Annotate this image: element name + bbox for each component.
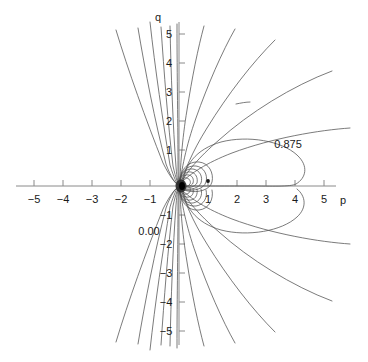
- x-tick-label--5: −5: [28, 193, 41, 205]
- contour-fragment-stray: [236, 102, 250, 104]
- x-tick-label--1: −1: [144, 193, 157, 205]
- contour-label-000: 0.00: [138, 225, 159, 237]
- contour-open-ul-4: [161, 27, 179, 185]
- y-tick-label-4: 4: [166, 57, 172, 69]
- x-axis-label: p: [340, 194, 346, 206]
- contour-open-lr-2: [180, 187, 235, 343]
- y-tick-label-5: 5: [166, 28, 172, 40]
- x-tick-label--3: −3: [86, 193, 99, 205]
- x-tick-label--2: −2: [115, 193, 128, 205]
- x-tick-label-1: 1: [205, 193, 211, 205]
- x-tick-label-4: 4: [292, 193, 298, 205]
- contour-plot-figure: −5 −4 −3 −2 −1 1 2 3 4 5 5 4 3 2 1 −1 −2…: [0, 0, 368, 362]
- y-axis-label: q: [155, 11, 161, 23]
- plot-canvas: [0, 0, 368, 362]
- y-tick-label--4: −4: [160, 296, 173, 308]
- x-tick-label-5: 5: [321, 193, 327, 205]
- y-tick-label-2: 2: [166, 115, 172, 127]
- x-tick-label-2: 2: [234, 193, 240, 205]
- x-tick-label-3: 3: [263, 193, 269, 205]
- origin-core: [176, 180, 187, 193]
- contour-open-ur-5: [182, 128, 350, 182]
- y-tick-label-3: 3: [166, 86, 172, 98]
- y-tick-label--5: −5: [160, 325, 173, 337]
- y-tick-label-1: 1: [166, 144, 172, 156]
- contour-open-ul-3: [150, 22, 178, 185]
- x-tick-label--4: −4: [57, 193, 70, 205]
- contour-open-ul-1: [116, 30, 178, 185]
- y-tick-label--1: −1: [160, 209, 173, 221]
- critical-point-marker: [206, 179, 210, 183]
- contour-open-ul-2: [138, 28, 178, 185]
- contour-label-0875: 0.875: [274, 138, 302, 150]
- y-tick-label--2: −2: [160, 238, 173, 250]
- contour-open-ur-2: [180, 29, 235, 185]
- y-tick-label--3: −3: [160, 267, 173, 279]
